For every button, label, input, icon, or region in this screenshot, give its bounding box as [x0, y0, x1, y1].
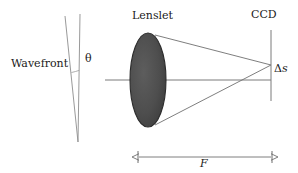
diagram-canvas	[0, 0, 298, 173]
ccd-label: CCD	[251, 9, 277, 20]
theta-angle-label: θ	[85, 53, 92, 64]
theta-angle-arc	[71, 70, 79, 72]
lenslet-label: Lenslet	[132, 10, 173, 21]
lenslet-element	[130, 33, 166, 127]
upper-marginal-ray	[155, 35, 271, 65]
delta-s-label: Δs	[274, 63, 288, 74]
wavefront-label: Wavefront	[11, 58, 68, 69]
wavefront-tilted-line	[65, 16, 78, 142]
lower-marginal-ray	[155, 65, 271, 125]
wavefront-group	[65, 14, 80, 142]
optical-diagram-figure: Wavefront θ Lenslet CCD Δs F	[0, 0, 298, 173]
wavefront-reference-line	[78, 14, 80, 142]
delta-symbol: Δ	[274, 62, 282, 75]
focal-length-label: F	[200, 158, 208, 169]
delta-s-variable: s	[282, 62, 288, 75]
